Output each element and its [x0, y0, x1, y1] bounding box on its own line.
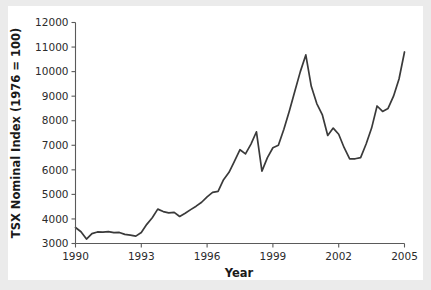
y-tick-label: 7000 — [42, 139, 69, 151]
x-axis-title: Year — [224, 266, 254, 280]
y-tick-label: 6000 — [42, 164, 69, 176]
y-axis-ticks: 3000400050006000700080009000100001100012… — [35, 16, 75, 249]
y-tick-label: 4000 — [42, 213, 69, 225]
y-tick-label: 9000 — [42, 90, 69, 102]
x-tick-label: 1993 — [128, 250, 155, 262]
x-tick-label: 2002 — [325, 250, 352, 262]
x-tick-label: 1999 — [260, 250, 287, 262]
tsx-index-line — [76, 52, 405, 239]
y-tick-label: 5000 — [42, 188, 69, 200]
plot-area — [76, 52, 405, 239]
tsx-nominal-index-line-chart: 3000400050006000700080009000100001100012… — [0, 0, 431, 290]
x-tick-label: 2005 — [391, 250, 418, 262]
y-tick-label: 8000 — [42, 114, 69, 126]
y-tick-label: 3000 — [42, 237, 69, 249]
y-tick-label: 11000 — [35, 41, 68, 53]
y-tick-label: 10000 — [35, 65, 68, 77]
y-axis: 3000400050006000700080009000100001100012… — [35, 16, 75, 249]
x-axis: 199019931996199920022005 — [62, 244, 418, 262]
chart-canvas: 3000400050006000700080009000100001100012… — [0, 0, 431, 290]
x-tick-label: 1996 — [194, 250, 221, 262]
x-tick-label: 1990 — [62, 250, 89, 262]
y-axis-title: TSX Nominal Index (1976 = 100) — [9, 28, 23, 238]
x-axis-ticks: 199019931996199920022005 — [62, 244, 418, 262]
y-tick-label: 12000 — [35, 16, 68, 28]
